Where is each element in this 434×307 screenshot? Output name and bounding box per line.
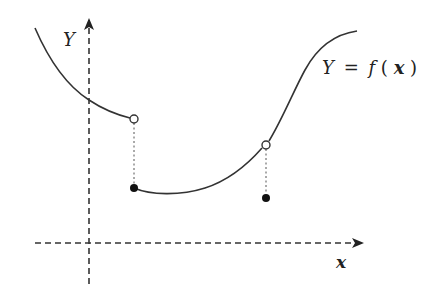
open-point-1 (130, 115, 138, 123)
function-label-arg: x (393, 57, 405, 78)
curve-left-branch (35, 28, 130, 118)
curve-right-branch (269, 31, 357, 141)
curve-middle-branch (134, 148, 262, 194)
open-point-2 (262, 141, 270, 149)
y-axis-label: Y (63, 29, 77, 50)
function-diagram: Y x Y = f ( x ) (0, 0, 434, 307)
function-label-f: f (366, 57, 378, 78)
function-label-lhs: Y (322, 57, 336, 78)
function-label-close-paren: ) (410, 57, 417, 78)
filled-point-1 (130, 184, 138, 192)
function-label-eq: = (344, 57, 359, 78)
filled-point-2 (262, 194, 270, 202)
function-label: Y = f ( x ) (322, 57, 417, 78)
function-label-open-paren: ( (381, 57, 388, 78)
x-axis-label: x (335, 252, 347, 272)
